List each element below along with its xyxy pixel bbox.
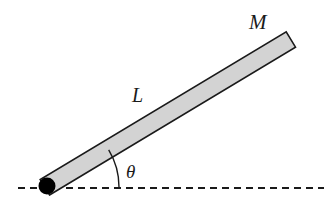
mass-label: M: [248, 10, 268, 34]
physics-diagram-svg: M L θ: [0, 0, 331, 206]
length-label: L: [131, 84, 143, 106]
angle-label: θ: [126, 161, 135, 182]
physics-diagram-canvas: M L θ: [0, 0, 331, 206]
pivot-point: [39, 178, 56, 195]
